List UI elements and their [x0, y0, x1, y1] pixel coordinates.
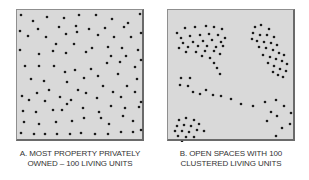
living-unit-dot [272, 71, 275, 74]
living-unit-dot [66, 103, 69, 106]
living-unit-dot [55, 43, 58, 46]
living-unit-dot [178, 47, 181, 50]
living-unit-dot [20, 132, 23, 135]
living-unit-dot [180, 77, 183, 80]
living-unit-dot [185, 136, 188, 139]
living-unit-dot [215, 46, 218, 49]
living-unit-dot [126, 85, 129, 88]
living-unit-dot [259, 34, 262, 37]
living-unit-dot [107, 133, 110, 136]
living-unit-dot [275, 58, 278, 61]
living-unit-dot [256, 40, 259, 43]
living-unit-dot [176, 125, 179, 128]
living-unit-dot [221, 28, 224, 31]
caption-b-line1: B. OPEN SPACES WITH 100 [156, 149, 306, 159]
living-unit-dot [192, 91, 195, 94]
living-unit-dot [55, 121, 58, 124]
living-unit-dot [38, 123, 41, 126]
living-unit-dot [77, 89, 80, 92]
living-unit-dot [140, 129, 143, 132]
living-unit-dot [130, 36, 133, 39]
living-unit-dot [252, 105, 255, 108]
living-unit-dot [279, 68, 282, 71]
living-unit-dot [30, 78, 33, 81]
living-unit-dot [64, 71, 67, 74]
living-unit-dot [44, 133, 47, 136]
living-unit-dot [134, 91, 137, 94]
living-unit-dot [83, 77, 86, 80]
living-unit-dot [277, 74, 280, 77]
living-unit-dot [276, 115, 279, 118]
caption-b: B. OPEN SPACES WITH 100 CLUSTERED LIVING… [156, 149, 306, 169]
living-unit-dot [224, 37, 227, 40]
living-unit-dot [187, 85, 190, 88]
living-unit-dot [125, 55, 128, 58]
living-unit-dot [281, 127, 284, 130]
living-unit-dot [283, 105, 286, 108]
living-unit-dot [21, 95, 24, 98]
living-unit-dot [123, 26, 126, 29]
living-unit-dot [38, 65, 41, 68]
living-unit-dot [181, 130, 184, 133]
living-unit-dot [85, 92, 88, 95]
living-unit-dot [96, 97, 99, 100]
living-unit-dot [213, 26, 216, 29]
living-unit-dot [267, 62, 270, 65]
living-unit-dot [286, 63, 289, 66]
living-unit-dot [189, 35, 192, 38]
living-unit-dot [122, 115, 125, 118]
living-unit-dot [192, 41, 195, 44]
dots-clustered [168, 10, 296, 142]
living-unit-dot [53, 65, 56, 68]
living-unit-dot [185, 117, 188, 120]
living-unit-dot [194, 26, 197, 29]
living-unit-dot [177, 135, 180, 138]
living-unit-dot [82, 107, 85, 110]
living-unit-dot [80, 132, 83, 135]
living-unit-dot [252, 32, 255, 35]
living-unit-dot [20, 14, 23, 17]
living-unit-dot [46, 16, 49, 19]
living-unit-dot [36, 92, 39, 95]
living-unit-dot [258, 46, 261, 49]
living-unit-dot [273, 65, 276, 68]
living-unit-dot [107, 46, 110, 49]
living-unit-dot [283, 54, 286, 57]
living-unit-dot [282, 76, 285, 79]
living-unit-dot [88, 28, 91, 31]
living-unit-dot [201, 55, 204, 58]
living-unit-dot [28, 99, 31, 102]
living-unit-dot [189, 77, 192, 80]
living-unit-dot [140, 101, 143, 104]
living-unit-dot [102, 85, 105, 88]
living-unit-dot [65, 33, 68, 36]
living-unit-dot [45, 36, 48, 39]
living-unit-dot [206, 45, 209, 48]
living-unit-dot [193, 119, 196, 122]
living-unit-dot [281, 60, 284, 63]
living-unit-dot [124, 107, 127, 110]
living-unit-dot [219, 73, 222, 76]
living-unit-dot [37, 28, 40, 31]
living-unit-dot [275, 99, 278, 102]
living-unit-dot [63, 17, 66, 20]
living-unit-dot [278, 52, 281, 55]
living-unit-dot [19, 49, 22, 52]
living-unit-dot [208, 33, 211, 36]
living-unit-dot [212, 94, 215, 97]
living-unit-dot [269, 56, 272, 59]
living-unit-dot [136, 78, 139, 81]
living-unit-dot [275, 135, 278, 138]
living-unit-dot [260, 24, 263, 27]
caption-a-line1: A. MOST PROPERTY PRIVATELY [5, 149, 155, 159]
living-unit-dot [202, 40, 205, 43]
living-unit-dot [183, 124, 186, 127]
living-unit-dot [106, 62, 109, 65]
living-unit-dot [91, 47, 94, 50]
living-unit-dot [285, 70, 288, 73]
living-unit-dot [19, 30, 22, 33]
living-unit-dot [263, 41, 266, 44]
living-unit-dot [23, 121, 26, 124]
living-unit-dot [76, 31, 79, 34]
living-unit-dot [273, 36, 276, 39]
